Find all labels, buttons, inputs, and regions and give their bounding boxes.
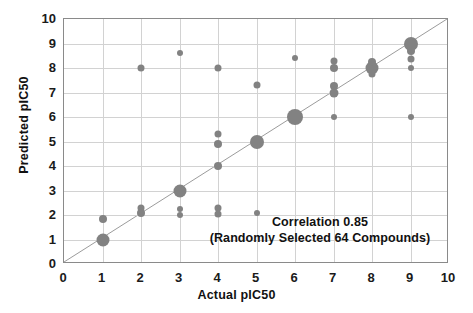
gridline-vertical xyxy=(141,19,142,262)
gridline-horizontal xyxy=(64,93,447,94)
data-point xyxy=(177,212,183,218)
data-point xyxy=(137,209,145,217)
gridline-horizontal xyxy=(64,68,447,69)
y-axis-tick-label: 0 xyxy=(26,256,56,271)
data-point xyxy=(330,64,338,72)
data-point xyxy=(253,82,260,89)
data-point xyxy=(214,140,222,148)
x-axis-tick-label: 4 xyxy=(202,270,232,285)
chart-annotation: Correlation 0.85 (Randomly Selected 64 C… xyxy=(196,214,444,246)
x-axis-tick-label: 1 xyxy=(87,270,117,285)
data-point xyxy=(407,56,414,63)
y-axis-tick-label: 3 xyxy=(26,182,56,197)
data-point xyxy=(177,50,183,56)
data-point xyxy=(331,114,337,120)
y-axis-tick-label: 6 xyxy=(26,109,56,124)
x-axis-tick-label: 5 xyxy=(241,270,271,285)
y-axis-tick-label: 1 xyxy=(26,231,56,246)
data-point xyxy=(96,233,109,246)
x-axis-tick-label: 0 xyxy=(48,270,78,285)
data-point xyxy=(287,109,303,125)
data-point xyxy=(368,58,376,66)
y-axis-tick-label: 7 xyxy=(26,84,56,99)
y-axis-tick-label: 4 xyxy=(26,158,56,173)
data-point xyxy=(408,114,414,120)
x-axis-tick-label: 9 xyxy=(395,270,425,285)
x-axis-tick-label: 3 xyxy=(164,270,194,285)
gridline-vertical xyxy=(103,19,104,262)
x-axis-tick-label: 10 xyxy=(433,270,463,285)
data-point xyxy=(99,215,107,223)
data-point xyxy=(138,65,145,72)
data-point xyxy=(330,82,338,90)
gridline-horizontal xyxy=(64,166,447,167)
y-axis-tick-label: 5 xyxy=(26,133,56,148)
y-axis-tick-label: 2 xyxy=(26,207,56,222)
data-point xyxy=(215,131,222,138)
y-axis-tick-label: 9 xyxy=(26,35,56,50)
data-point xyxy=(177,206,183,212)
data-point xyxy=(173,184,186,197)
scatter-chart-figure: Actual pIC50 Predicted pIC50 Correlation… xyxy=(0,0,473,313)
x-axis-tick-label: 8 xyxy=(356,270,386,285)
data-point xyxy=(215,65,222,72)
gridline-horizontal xyxy=(64,117,447,118)
x-axis-tick-label: 6 xyxy=(279,270,309,285)
gridline-horizontal xyxy=(64,191,447,192)
data-point xyxy=(250,135,264,149)
y-axis-tick-label: 10 xyxy=(26,11,56,26)
gridline-horizontal xyxy=(64,44,447,45)
data-point xyxy=(292,55,298,61)
annotation-line-correlation: Correlation 0.85 xyxy=(196,214,444,230)
annotation-line-sample: (Randomly Selected 64 Compounds) xyxy=(196,230,444,246)
x-axis-tick-label: 2 xyxy=(125,270,155,285)
data-point xyxy=(214,162,222,170)
data-point xyxy=(330,57,337,64)
data-point xyxy=(408,65,414,71)
x-axis-label: Actual pIC50 xyxy=(0,288,473,302)
data-point xyxy=(404,37,418,51)
y-axis-tick-label: 8 xyxy=(26,60,56,75)
x-axis-tick-label: 7 xyxy=(318,270,348,285)
